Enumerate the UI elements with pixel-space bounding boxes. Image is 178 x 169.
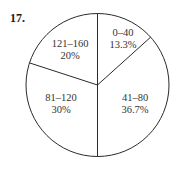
slice-range: 0–40 [109,27,136,39]
slice-label-41-80: 41–80 36.7% [121,92,148,116]
slice-range: 121–160 [52,38,89,50]
slice-label-0-40: 0–40 13.3% [109,27,136,51]
slice-label-121-160: 121–160 20% [52,38,89,62]
slice-percent: 30% [45,104,77,116]
slice-percent: 36.7% [121,104,148,116]
slice-percent: 13.3% [109,39,136,51]
slice-range: 41–80 [121,92,148,104]
pie-chart [0,0,178,169]
slice-range: 81–120 [45,92,77,104]
slice-label-81-120: 81–120 30% [45,92,77,116]
slice-percent: 20% [52,50,89,62]
